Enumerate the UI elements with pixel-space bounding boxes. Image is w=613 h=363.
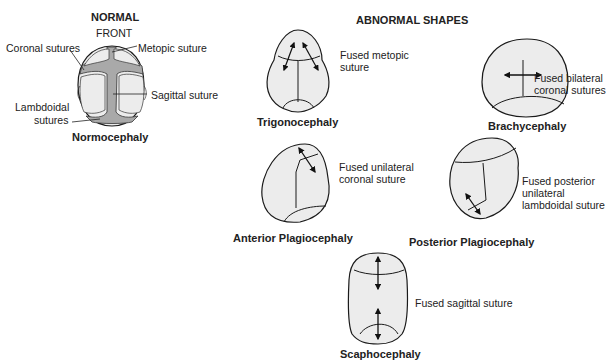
abnormal-heading: ABNORMAL SHAPES — [356, 14, 468, 26]
posterior-plagiocephaly-name: Posterior Plagiocephaly — [409, 236, 534, 248]
trigonocephaly-skull — [267, 30, 329, 112]
scaphocephaly-skull — [348, 253, 407, 344]
normal-heading: NORMAL — [91, 11, 139, 23]
front-label: FRONT — [96, 27, 132, 39]
anterior-plagiocephaly-desc-line2: coronal suture — [339, 173, 406, 185]
posterior-plagiocephaly-desc-line3: lambdoidal suture — [522, 199, 605, 211]
posterior-plagiocephaly-desc-line1: Fused posterior — [522, 175, 595, 187]
lambdoidal-label-line1: Lambdoidal — [15, 101, 69, 113]
brachycephaly-desc-line2: coronal sutures — [534, 84, 606, 96]
trigonocephaly-name: Trigonocephaly — [257, 116, 338, 128]
scaphocephaly-name: Scaphocephaly — [340, 348, 421, 360]
trigonocephaly-desc-line1: Fused metopic — [340, 49, 409, 61]
posterior-plagiocephaly-desc-line2: unilateral — [522, 187, 565, 199]
sagittal-suture-label: Sagittal suture — [151, 89, 218, 101]
coronal-sutures-label: Coronal sutures — [6, 42, 80, 54]
anterior-plagiocephaly-name: Anterior Plagiocephaly — [233, 232, 353, 244]
brachycephaly-desc-line1: Fused bilateral — [534, 72, 603, 84]
lambdoidal-label-line2: sutures — [34, 114, 68, 126]
normocephaly-name: Normocephaly — [72, 131, 148, 143]
normocephaly-skull — [70, 46, 147, 126]
anterior-plagiocephaly-skull — [262, 144, 329, 222]
scaphocephaly-desc-line1: Fused sagittal suture — [415, 297, 512, 309]
trigonocephaly-desc-line2: suture — [340, 61, 369, 73]
posterior-plagiocephaly-skull — [450, 138, 518, 219]
metopic-suture-label: Metopic suture — [138, 42, 207, 54]
brachycephaly-name: Brachycephaly — [488, 120, 566, 132]
anterior-plagiocephaly-desc-line1: Fused unilateral — [339, 161, 414, 173]
